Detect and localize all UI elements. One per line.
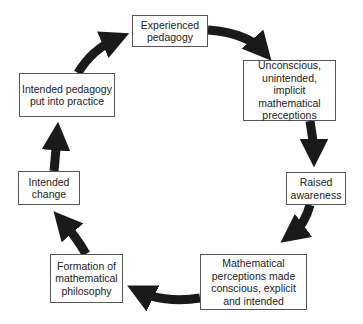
node-label: Unconscious, unintended, implicit mathem…	[246, 59, 333, 122]
arrow-conscious-to-formation	[140, 292, 200, 300]
arrow-experienced-to-unconscious	[208, 30, 262, 50]
node-perceptions-made-conscious: Mathematical perceptions made conscious,…	[200, 254, 307, 310]
node-intended-pedagogy-practice: Intended pedagogy put into practice	[19, 73, 115, 117]
arrow-formation-to-change	[63, 222, 86, 254]
node-raised-awareness: Raised awareness	[286, 172, 346, 205]
node-formation-of-philosophy: Formation of mathematical philosophy	[50, 254, 123, 303]
node-experienced-pedagogy: Experienced pedagogy	[132, 15, 208, 47]
node-label: Formation of mathematical philosophy	[55, 260, 117, 298]
node-intended-change: Intended change	[18, 171, 80, 205]
arrow-practice-to-experienced	[78, 39, 116, 73]
arrow-unconscious-to-raised	[310, 121, 314, 153]
node-unconscious-perceptions: Unconscious, unintended, implicit mathem…	[243, 60, 336, 121]
node-label: Experienced pedagogy	[141, 19, 199, 44]
node-label: Intended change	[29, 176, 70, 201]
cycle-diagram: Experienced pedagogy Unconscious, uninte…	[0, 0, 363, 324]
arrow-raised-to-conscious	[292, 205, 310, 234]
node-label: Raised awareness	[291, 176, 342, 201]
node-label: Mathematical perceptions made conscious,…	[211, 257, 296, 307]
node-label: Intended pedagogy put into practice	[22, 83, 112, 108]
arrow-change-to-intended-practice	[54, 136, 57, 171]
